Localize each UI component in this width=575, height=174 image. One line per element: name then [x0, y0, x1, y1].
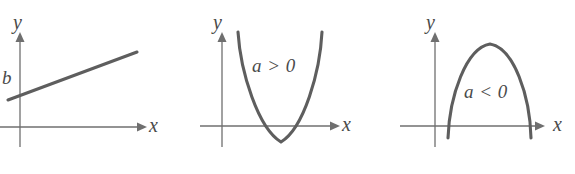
y-axis-arrowhead: [218, 32, 227, 42]
figure-root: y x b y x a > 0 y x: [0, 0, 575, 174]
x-axis-arrowhead: [535, 122, 545, 131]
panel-downward-parabola-graph: y x a < 0: [384, 0, 575, 174]
x-axis-label: x: [342, 114, 351, 134]
y-axis-arrowhead: [431, 32, 440, 42]
y-axis-arrowhead: [16, 32, 25, 42]
x-axis-label: x: [553, 114, 562, 134]
panel-linear-graph: y x b: [0, 0, 192, 174]
x-axis-arrowhead: [137, 123, 147, 132]
coefficient-sign-label: a < 0: [464, 82, 508, 101]
x-axis-arrowhead: [330, 122, 340, 131]
linear-graph-svg: [0, 0, 192, 174]
y-intercept-label: b: [2, 68, 12, 87]
coefficient-sign-label: a > 0: [252, 56, 296, 75]
panel-upward-parabola-graph: y x a > 0: [192, 0, 384, 174]
y-axis-label: y: [213, 12, 222, 32]
linear-function-curve: [8, 52, 137, 100]
y-axis-label: y: [426, 12, 435, 32]
x-axis-label: x: [149, 115, 158, 135]
y-axis-label: y: [13, 12, 22, 32]
